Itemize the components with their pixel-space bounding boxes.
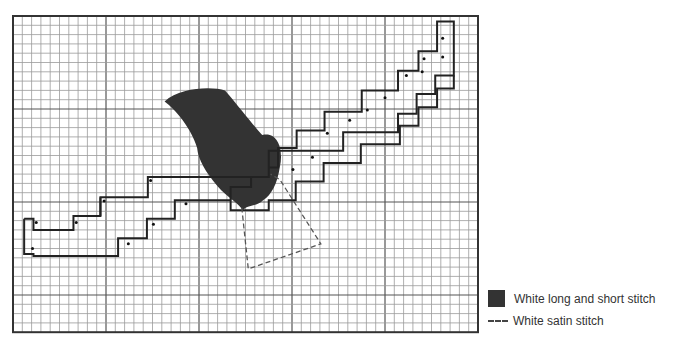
legend-satin-label: White satin stitch (513, 314, 604, 328)
long-short-stitch-area (165, 88, 281, 210)
dashed-line-icon (488, 320, 508, 322)
legend-long-short: White long and short stitch (488, 290, 655, 307)
legend-long-short-label: White long and short stitch (514, 292, 655, 306)
dark-fill-swatch-icon (488, 290, 505, 307)
legend-satin: White satin stitch (488, 314, 604, 328)
